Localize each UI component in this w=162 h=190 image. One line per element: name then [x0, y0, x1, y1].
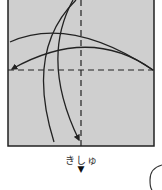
next-step-marker-icon: ▼ [0, 164, 162, 174]
